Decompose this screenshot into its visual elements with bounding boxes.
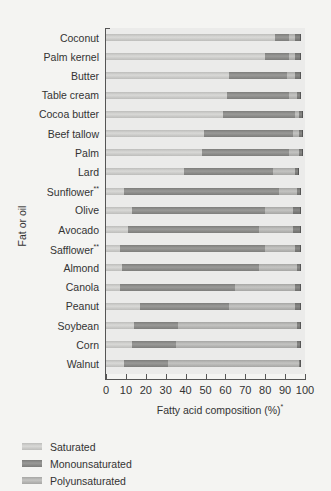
y-axis-top-tick xyxy=(105,28,110,29)
bar-segment-other xyxy=(293,226,301,233)
category-label: Almond xyxy=(63,262,99,274)
bar xyxy=(106,303,301,310)
bar xyxy=(106,72,301,79)
bar-segment-other xyxy=(299,111,303,118)
bar-segment-polyunsaturated xyxy=(259,226,293,233)
category-label: Avocado xyxy=(58,224,99,236)
bar-segment-saturated xyxy=(106,130,204,137)
bar-segment-monounsaturated xyxy=(124,360,168,367)
category-label: Olive xyxy=(75,204,99,216)
bar-segment-polyunsaturated xyxy=(178,322,297,329)
x-tick xyxy=(225,374,226,379)
legend-item-polyunsaturated: Polyunsaturated xyxy=(22,472,132,489)
bar-segment-other xyxy=(295,168,299,175)
legend-item-saturated: Saturated xyxy=(22,438,132,455)
category-label: Soybean xyxy=(58,320,99,332)
bar-segment-monounsaturated xyxy=(202,149,290,156)
legend-label: Polyunsaturated xyxy=(50,475,126,487)
category-label: Palm kernel xyxy=(44,51,99,63)
bar-segment-other xyxy=(297,264,301,271)
bar xyxy=(106,264,301,271)
bar xyxy=(106,130,303,137)
bar-segment-monounsaturated xyxy=(265,53,289,60)
category-label: Table cream xyxy=(42,89,99,101)
bar-segment-other xyxy=(297,322,301,329)
bar-segment-polyunsaturated xyxy=(265,245,295,252)
bar-segment-polyunsaturated xyxy=(235,284,295,291)
legend-swatch-saturated xyxy=(22,443,42,450)
category-label: Cocoa butter xyxy=(39,108,99,120)
bar-segment-monounsaturated xyxy=(120,245,265,252)
bar-segment-monounsaturated xyxy=(128,226,259,233)
bar-segment-saturated xyxy=(106,53,265,60)
bar-segment-saturated xyxy=(106,72,229,79)
bar xyxy=(106,322,301,329)
bar-segment-other xyxy=(295,284,301,291)
bar xyxy=(106,92,301,99)
bar-segment-saturated xyxy=(106,245,120,252)
bar-segment-saturated xyxy=(106,264,122,271)
bar xyxy=(106,149,303,156)
bar-segment-saturated xyxy=(106,92,227,99)
x-tick xyxy=(146,374,147,379)
x-axis-line xyxy=(105,379,306,380)
bar-segment-saturated xyxy=(106,303,140,310)
bar-segment-other xyxy=(295,53,301,60)
bar-segment-monounsaturated xyxy=(122,264,259,271)
category-label: Corn xyxy=(76,339,99,351)
bar-segment-other xyxy=(295,245,301,252)
category-label: Beef tallow xyxy=(48,128,99,140)
x-tick xyxy=(166,374,167,379)
category-label: Safflower** xyxy=(50,243,99,256)
bar-segment-monounsaturated xyxy=(120,284,235,291)
legend-swatch-polyunsaturated xyxy=(22,477,42,484)
x-tick xyxy=(245,374,246,379)
x-tick xyxy=(186,374,187,379)
bar xyxy=(106,360,301,367)
bar-segment-monounsaturated xyxy=(124,188,279,195)
bar-segment-other xyxy=(293,207,301,214)
bar-segment-polyunsaturated xyxy=(287,72,295,79)
x-axis-label: Fatty acid composition (%)* xyxy=(150,403,290,416)
bar-segment-other xyxy=(297,341,301,348)
bar-segment-other xyxy=(299,130,303,137)
bar-segment-monounsaturated xyxy=(204,130,294,137)
bar-segment-polyunsaturated xyxy=(265,207,293,214)
bar-segment-polyunsaturated xyxy=(289,92,297,99)
bar-segment-polyunsaturated xyxy=(273,168,295,175)
bar-segment-saturated xyxy=(106,207,132,214)
category-label: Canola xyxy=(66,281,99,293)
bar xyxy=(106,284,301,291)
x-tick xyxy=(106,374,107,379)
bar-segment-monounsaturated xyxy=(132,207,265,214)
y-axis-label: Fat or oil xyxy=(16,196,28,256)
bar xyxy=(106,341,301,348)
bar-segment-other xyxy=(299,149,303,156)
bar xyxy=(106,34,301,41)
legend: Saturated Monounsaturated Polyunsaturate… xyxy=(22,438,132,489)
x-tick xyxy=(126,374,127,379)
bar-segment-saturated xyxy=(106,149,202,156)
bar-segment-saturated xyxy=(106,188,124,195)
bar-segment-other xyxy=(295,303,301,310)
bar xyxy=(106,245,301,252)
x-tick xyxy=(305,374,306,379)
bar-segment-saturated xyxy=(106,284,120,291)
bar xyxy=(106,111,303,118)
bar-segment-monounsaturated xyxy=(132,341,176,348)
bar-segment-monounsaturated xyxy=(134,322,178,329)
legend-item-monounsaturated: Monounsaturated xyxy=(22,455,132,472)
bar-segment-monounsaturated xyxy=(229,72,287,79)
legend-label: Monounsaturated xyxy=(50,458,132,470)
category-label: Walnut xyxy=(67,358,99,370)
bar-segment-saturated xyxy=(106,226,128,233)
bar xyxy=(106,188,301,195)
bar-segment-saturated xyxy=(106,322,134,329)
x-axis-label-footnote: * xyxy=(280,403,283,410)
bar xyxy=(106,53,301,60)
category-label: Coconut xyxy=(60,32,99,44)
bar-segment-polyunsaturated xyxy=(168,360,299,367)
bar-segment-other xyxy=(297,188,301,195)
bar-segment-polyunsaturated xyxy=(289,149,299,156)
category-label: Sunflower** xyxy=(47,185,99,198)
